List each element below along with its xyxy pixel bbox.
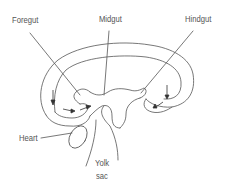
label-sac: sac: [96, 171, 108, 182]
outer-gut-wall: [41, 43, 194, 115]
gut-diagram: [0, 0, 232, 192]
foregut-leader: [30, 33, 80, 95]
label-heart: Heart: [19, 133, 38, 144]
yolk-stalk-right: [102, 106, 118, 160]
midgut-stalk: [90, 88, 146, 98]
foregut-pocket: [46, 115, 90, 126]
heart-leader: [41, 133, 72, 138]
label-yolk: Yolk: [95, 158, 109, 169]
midgut-leader: [104, 31, 109, 95]
heart-shape: [65, 123, 91, 152]
hindgut-leader: [141, 31, 193, 93]
inner-gut-wall: [54, 56, 181, 112]
label-midgut: Midgut: [99, 14, 122, 25]
label-foregut: Foregut: [12, 15, 38, 26]
label-hindgut: Hindgut: [185, 14, 211, 25]
